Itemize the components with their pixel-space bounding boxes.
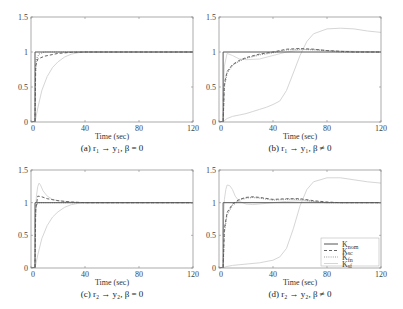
x-axis-label: Time (sec) xyxy=(283,132,317,141)
y-tick-label: 0 xyxy=(212,118,216,127)
x-tick-label: 80 xyxy=(135,124,143,133)
subplot-c: 00.511.504080120Time (sec)(c) r₂ → y₂, β… xyxy=(18,166,199,299)
line-k-sc xyxy=(31,52,193,122)
line-k-sc xyxy=(31,196,193,268)
x-tick-label: 120 xyxy=(187,270,199,279)
subfigure-caption: (b) r₁ → y₁, β ≠ 0 xyxy=(268,143,332,153)
x-tick-label: 40 xyxy=(269,270,277,279)
y-tick-label: 0 xyxy=(24,264,28,273)
y-tick-label: 1 xyxy=(24,199,28,208)
legend: KnomKscKfnKsf xyxy=(321,238,379,269)
series-group xyxy=(31,52,193,122)
y-tick-label: 0.5 xyxy=(206,83,216,92)
subplot-b: 00.511.504080120Time (sec)(b) r₁ → y₁, β… xyxy=(206,13,387,153)
line-k-nom xyxy=(31,52,193,122)
y-tick-label: 1 xyxy=(212,48,216,57)
y-tick-label: 0.5 xyxy=(206,231,216,240)
x-tick-label: 80 xyxy=(323,124,331,133)
subfigure-caption: (d) r₂ → y₂, β ≠ 0 xyxy=(268,289,332,299)
series-group xyxy=(219,28,381,122)
x-tick-label: 40 xyxy=(81,124,89,133)
x-tick-label: 40 xyxy=(269,124,277,133)
subplot-d: 00.511.504080120Time (sec)(d) r₂ → y₂, β… xyxy=(206,166,387,299)
axes-frame xyxy=(31,170,193,268)
y-tick-label: 0.5 xyxy=(18,231,28,240)
x-tick-label: 120 xyxy=(375,124,387,133)
line-k-sf-peak xyxy=(35,183,193,229)
axes-frame xyxy=(31,17,193,122)
figure-canvas: 00.511.504080120Time (sec)(a) r₁ → y₁, β… xyxy=(0,0,403,309)
y-tick-label: 0 xyxy=(24,118,28,127)
subfigure-caption: (a) r₁ → y₁, β = 0 xyxy=(81,143,144,153)
y-tick-label: 1 xyxy=(24,48,28,57)
line-k-sf xyxy=(31,203,193,268)
x-axis-label: Time (sec) xyxy=(95,132,129,141)
x-axis-label: Time (sec) xyxy=(95,278,129,287)
line-k-nom xyxy=(31,203,193,268)
y-tick-label: 1.5 xyxy=(206,166,216,175)
x-tick-label: 0 xyxy=(31,124,35,133)
x-tick-label: 0 xyxy=(31,270,35,279)
x-tick-label: 0 xyxy=(219,270,223,279)
x-tick-label: 120 xyxy=(375,270,387,279)
subplot-a: 00.511.504080120Time (sec)(a) r₁ → y₁, β… xyxy=(18,13,199,153)
y-tick-label: 1.5 xyxy=(18,166,28,175)
y-tick-label: 1 xyxy=(212,199,216,208)
x-tick-label: 80 xyxy=(135,270,143,279)
y-tick-label: 1.5 xyxy=(206,13,216,22)
x-tick-label: 40 xyxy=(81,270,89,279)
x-tick-label: 0 xyxy=(219,124,223,133)
line-k-sf xyxy=(219,28,381,122)
subfigure-caption: (c) r₂ → y₂, β = 0 xyxy=(81,289,144,299)
line-k-fn xyxy=(31,52,193,122)
y-tick-label: 0 xyxy=(212,264,216,273)
series-group xyxy=(31,183,193,268)
line-k-fn xyxy=(219,49,381,122)
line-k-nom xyxy=(219,52,381,122)
y-tick-label: 0.5 xyxy=(18,83,28,92)
x-tick-label: 80 xyxy=(323,270,331,279)
axes-frame xyxy=(219,17,381,122)
x-axis-label: Time (sec) xyxy=(283,278,317,287)
line-k-sf xyxy=(31,52,193,122)
y-tick-label: 1.5 xyxy=(18,13,28,22)
line-k-sf-peak xyxy=(223,185,381,235)
line-k-fn xyxy=(31,203,193,268)
line-k-sf-b xyxy=(223,49,381,101)
x-tick-label: 120 xyxy=(187,124,199,133)
